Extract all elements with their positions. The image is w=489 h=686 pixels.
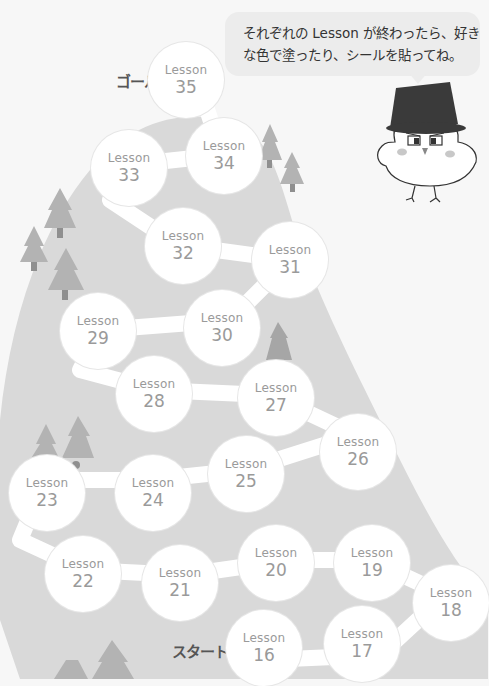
- lesson-19[interactable]: Lesson19: [334, 525, 410, 601]
- lesson-18[interactable]: Lesson18: [413, 565, 489, 641]
- lesson-35[interactable]: Lesson35: [148, 42, 224, 118]
- lesson-31[interactable]: Lesson31: [252, 222, 328, 298]
- lesson-30[interactable]: Lesson30: [184, 290, 260, 366]
- lesson-20[interactable]: Lesson20: [238, 525, 314, 601]
- lesson-17[interactable]: Lesson17: [324, 606, 400, 682]
- lesson-32[interactable]: Lesson32: [145, 208, 221, 284]
- mascot-bird-icon: [370, 82, 480, 207]
- lesson-23[interactable]: Lesson23: [9, 455, 85, 531]
- lesson-26[interactable]: Lesson26: [320, 414, 396, 490]
- lesson-29[interactable]: Lesson29: [60, 293, 136, 369]
- lesson-16[interactable]: Lesson16: [226, 610, 302, 686]
- instruction-line-2: な色で塗ったり、シールを貼ってね。: [243, 44, 468, 66]
- instruction-line-1: それぞれの Lesson が終わったら、好き: [243, 22, 468, 44]
- lesson-34[interactable]: Lesson34: [186, 118, 262, 194]
- lesson-25[interactable]: Lesson25: [208, 436, 284, 512]
- instruction-bubble: それぞれの Lesson が終わったら、好き な色で塗ったり、シールを貼ってね。: [225, 12, 480, 76]
- lesson-22[interactable]: Lesson22: [45, 536, 121, 612]
- lesson-24[interactable]: Lesson24: [115, 455, 191, 531]
- start-label: スタート: [172, 640, 228, 661]
- lesson-33[interactable]: Lesson33: [91, 130, 167, 206]
- lesson-21[interactable]: Lesson21: [142, 545, 218, 621]
- lesson-28[interactable]: Lesson28: [116, 356, 192, 432]
- lesson-27[interactable]: Lesson27: [238, 360, 314, 436]
